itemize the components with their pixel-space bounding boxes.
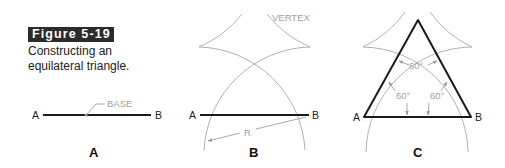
- angle-arrow: [428, 103, 429, 115]
- point-b-label: B: [155, 109, 162, 121]
- point-a-label: A: [32, 109, 39, 121]
- point-b-label: B: [312, 109, 319, 121]
- radius-arrow-right: [256, 117, 306, 129]
- point-a-label: A: [189, 109, 196, 121]
- panel-c: A B 60° 60° 60° C: [353, 12, 482, 160]
- panel-c-label: C: [413, 145, 423, 160]
- arc-from-b: [199, 14, 305, 150]
- panel-a: A B BASE A: [32, 98, 162, 160]
- equilateral-triangle-diagram: A B BASE A A B VERTEX R B A B 60° 60°: [0, 0, 505, 168]
- radius-annotation: R: [244, 127, 251, 138]
- panel-a-label: A: [89, 145, 99, 160]
- vertex-annotation: VERTEX: [272, 12, 311, 23]
- angle-left-annotation: 60°: [396, 90, 411, 101]
- arc-from-a: [366, 12, 472, 152]
- panel-b: A B VERTEX R B: [189, 12, 319, 160]
- base-annotation: BASE: [107, 98, 132, 109]
- radius-arrow-left: [208, 133, 240, 141]
- angle-arrow: [399, 61, 409, 65]
- panel-b-label: B: [249, 145, 258, 160]
- point-b-label: B: [475, 111, 482, 123]
- angle-top-annotation: 60°: [409, 60, 424, 71]
- angle-right-annotation: 60°: [430, 90, 445, 101]
- angle-arrow: [428, 61, 437, 65]
- base-leader-arrow: [88, 104, 105, 113]
- arc-from-a: [204, 14, 310, 150]
- point-a-label: A: [353, 111, 360, 123]
